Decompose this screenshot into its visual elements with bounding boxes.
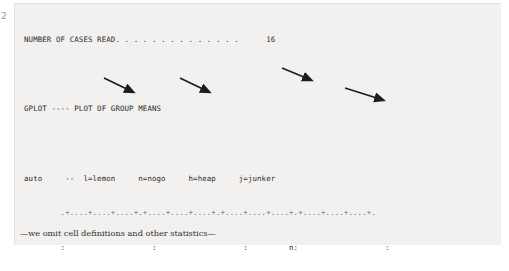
- line-plot-title: GPLOT ---- PLOT OF GROUP MEANS: [24, 103, 390, 115]
- page-margin-mark: 2: [1, 10, 9, 22]
- spacer-line-1: [24, 69, 390, 81]
- listing-panel: NUMBER OF CASES READ. . . . . . . . . . …: [14, 3, 501, 245]
- spacer-line-2: [24, 138, 390, 150]
- screenshot-root: 2 NUMBER OF CASES READ. . . . . . . . . …: [0, 0, 509, 271]
- line-legend: auto -- l=lemon n=nogo h=heap j=junker: [24, 173, 390, 185]
- footnote-text: —we omit cell definitions and other stat…: [20, 228, 216, 239]
- line-cases-read: NUMBER OF CASES READ. . . . . . . . . . …: [24, 34, 390, 46]
- line-top-axis: .+....+....+....+.+....+....+....+.+....…: [24, 207, 390, 219]
- plot-row: : : : n: :: [24, 242, 390, 254]
